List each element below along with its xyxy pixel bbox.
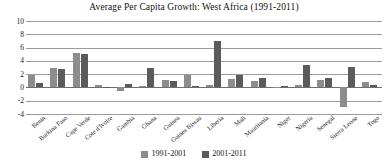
- bar: [73, 53, 80, 88]
- bar: [147, 68, 154, 88]
- chart-title: Average Per Capita Growth: West Africa (…: [0, 2, 388, 12]
- bar: [295, 85, 302, 88]
- bar: [362, 82, 369, 87]
- bar: [81, 54, 88, 87]
- chart-bars: [26, 21, 382, 114]
- bar: [317, 80, 324, 87]
- bar: [28, 75, 35, 87]
- bar: [125, 84, 132, 87]
- y-axis-label-8: 8: [2, 31, 24, 39]
- bar: [340, 87, 347, 107]
- y-axis-label-6: 6: [2, 44, 24, 52]
- bar-group: [271, 21, 293, 114]
- bar-group: [71, 21, 93, 114]
- y-axis-tick-labels: 1086420-2-4: [0, 21, 24, 114]
- y-axis-label--4: -4: [2, 111, 24, 119]
- bar-group: [360, 21, 382, 114]
- bar-group: [93, 21, 115, 114]
- bar-group: [315, 21, 337, 114]
- bar: [50, 68, 57, 88]
- chart-legend: 1991-20012001-2011: [0, 150, 388, 158]
- legend-swatch: [141, 151, 148, 158]
- x-axis-tick-labels: BeninBurkina FasoCape VerdeCote d'Ivoire…: [26, 114, 382, 148]
- bar-group: [115, 21, 137, 114]
- bar: [370, 85, 377, 88]
- bar: [273, 87, 280, 88]
- bar: [58, 69, 65, 88]
- y-axis-label-2: 2: [2, 71, 24, 79]
- y-axis-label--2: -2: [2, 97, 24, 105]
- bar-group: [182, 21, 204, 114]
- bar-group: [204, 21, 226, 114]
- legend-item: 2001-2011: [202, 150, 246, 158]
- bar-group: [160, 21, 182, 114]
- bar-group: [26, 21, 48, 114]
- y-axis-label-10: 10: [2, 18, 24, 26]
- bar-group: [226, 21, 248, 114]
- bar: [259, 78, 266, 87]
- bar: [251, 81, 258, 87]
- bar: [206, 85, 213, 87]
- bar: [325, 78, 332, 87]
- y-axis-label-4: 4: [2, 57, 24, 65]
- bar: [348, 67, 355, 88]
- bar: [236, 75, 243, 88]
- bar: [192, 86, 199, 87]
- legend-item: 1991-2001: [141, 150, 186, 158]
- bar: [117, 87, 124, 91]
- bar: [303, 65, 310, 88]
- bar-group: [48, 21, 70, 114]
- bar: [162, 80, 169, 87]
- bar: [36, 83, 43, 88]
- legend-swatch: [202, 151, 209, 158]
- bar-group: [249, 21, 271, 114]
- chart-container: Average Per Capita Growth: West Africa (…: [0, 0, 388, 168]
- y-axis-label-0: 0: [2, 84, 24, 92]
- legend-label: 2001-2011: [212, 150, 246, 158]
- bar: [103, 87, 110, 88]
- bar-group: [137, 21, 159, 114]
- legend-label: 1991-2001: [151, 150, 186, 158]
- bar: [139, 86, 146, 87]
- bar: [170, 81, 177, 88]
- bar: [214, 41, 221, 88]
- bar: [95, 85, 102, 88]
- bar-group: [293, 21, 315, 114]
- bar: [228, 79, 235, 88]
- bar: [281, 86, 288, 87]
- bar-group: [338, 21, 360, 114]
- bar: [184, 75, 191, 88]
